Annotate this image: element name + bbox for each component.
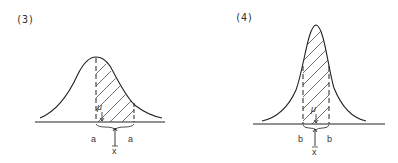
panel-3-label: (3) <box>16 14 34 25</box>
panel-3-xbar-label: x <box>112 146 117 156</box>
panel-3-graph <box>35 50 165 146</box>
panel-3-interval-right-label: a <box>128 134 133 144</box>
diagram-root: (3) μ a a x (4) μ b b x <box>0 0 398 163</box>
panel-4-interval-right-label: b <box>327 134 332 144</box>
panel-3-mu-label: μ <box>97 102 102 112</box>
panel-4-graph <box>253 10 385 147</box>
panel-4-xbar-label: x <box>312 147 317 157</box>
normal-curves-figure <box>0 0 398 163</box>
panel-4-interval-left-label: b <box>298 134 303 144</box>
panel-4-label: (4) <box>235 12 253 23</box>
panel-4-mu-label: μ <box>311 104 316 114</box>
panel-3-interval-left-label: a <box>91 134 96 144</box>
